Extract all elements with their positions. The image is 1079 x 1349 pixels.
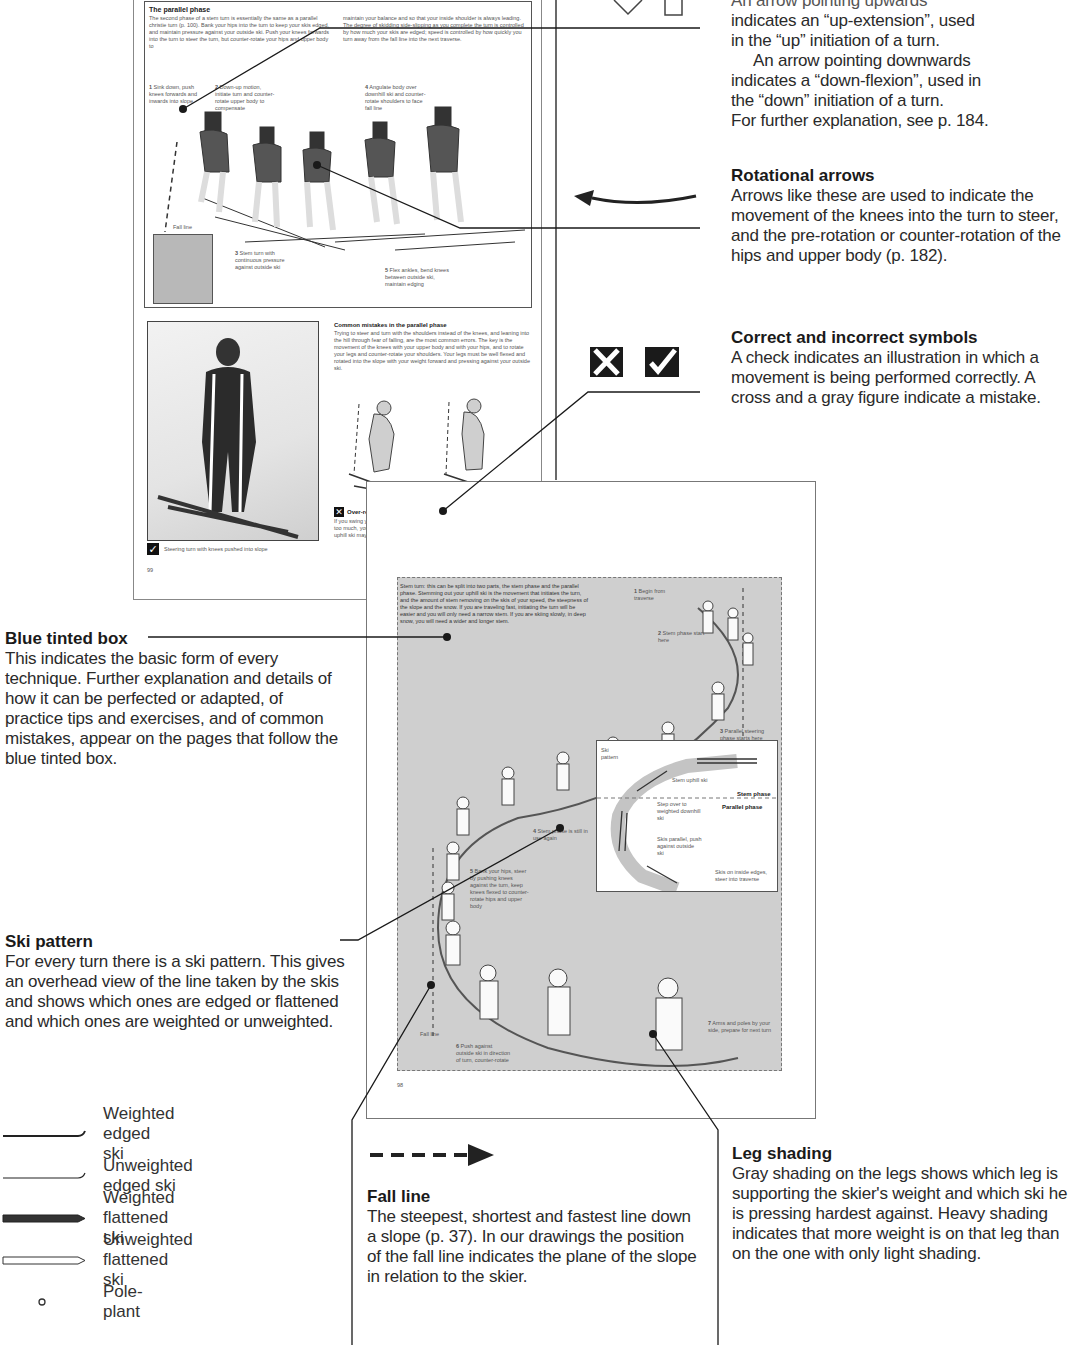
ski-pattern-heading: Ski pattern [5, 932, 345, 952]
leg-shading-body: Gray shading on the legs shows which leg… [732, 1164, 1077, 1264]
text-line: indicates an “up-extension”, used [731, 11, 1076, 31]
legend-row-weighted-edged: Weighted edged ski [0, 1123, 90, 1145]
ski-pattern-section: Ski pattern For every turn there is a sk… [5, 932, 345, 1032]
fall-line-body: The steepest, shortest and fastest line … [367, 1207, 697, 1287]
up-down-arrows-text: indicates an “up-extension”, used in the… [731, 11, 1076, 131]
legend-label: Unweighted flattened ski [103, 1230, 193, 1290]
correct-symbols-section: Correct and incorrect symbols A check in… [731, 328, 1076, 408]
legend-row-unweighted-edged: Unweighted edged ski [0, 1165, 90, 1187]
rotational-arrows-body: Arrows like these are used to indicate t… [731, 186, 1076, 266]
weighted-flattened-ski-icon [0, 1207, 90, 1229]
text-line: indicates a “down-flexion”, used in [731, 71, 1076, 91]
blue-tinted-box-body: This indicates the basic form of every t… [5, 649, 345, 769]
fall-line-heading: Fall line [367, 1187, 697, 1207]
correct-symbols-body: A check indicates an illustration in whi… [731, 348, 1076, 408]
pole-plant-icon [0, 1291, 90, 1313]
correct-symbols-heading: Correct and incorrect symbols [731, 328, 1076, 348]
legend-label: Weighted edged ski [103, 1104, 175, 1164]
blue-tinted-box-section: Blue tinted box This indicates the basic… [5, 629, 345, 769]
text-line: the “down” initiation of a turn. [731, 91, 1076, 111]
text-line: For further explanation, see p. 184. [731, 111, 1076, 131]
fall-line-section: Fall line The steepest, shortest and fas… [367, 1187, 697, 1287]
weighted-edged-ski-icon [0, 1123, 90, 1145]
unweighted-edged-ski-icon [0, 1165, 90, 1187]
leg-shading-section: Leg shading Gray shading on the legs sho… [732, 1144, 1077, 1264]
rotational-arrows-heading: Rotational arrows [731, 166, 1076, 186]
blue-tinted-box-heading: Blue tinted box [5, 629, 345, 649]
leg-shading-heading: Leg shading [732, 1144, 1077, 1164]
fall-line-dashed-arrow-icon [368, 1140, 498, 1170]
text-line: An arrow pointing downwards [731, 51, 1076, 71]
legend-row-pole-plant: Pole-plant [0, 1291, 90, 1313]
legend-row-weighted-flattened: Weighted flattened ski [0, 1207, 90, 1229]
ski-symbol-legend: Weighted edged ski Unweighted edged ski … [0, 1123, 350, 1343]
ski-pattern-body: For every turn there is a ski pattern. T… [5, 952, 345, 1032]
rotational-arrows-section: Rotational arrows Arrows like these are … [731, 166, 1076, 266]
text-line: in the “up” initiation of a turn. [731, 31, 1076, 51]
unweighted-flattened-ski-icon [0, 1249, 90, 1271]
legend-row-unweighted-flattened: Unweighted flattened ski [0, 1249, 90, 1271]
up-arrow-partial-line: An arrow pointing upwards [731, 0, 1071, 11]
legend-label: Pole-plant [103, 1282, 143, 1322]
